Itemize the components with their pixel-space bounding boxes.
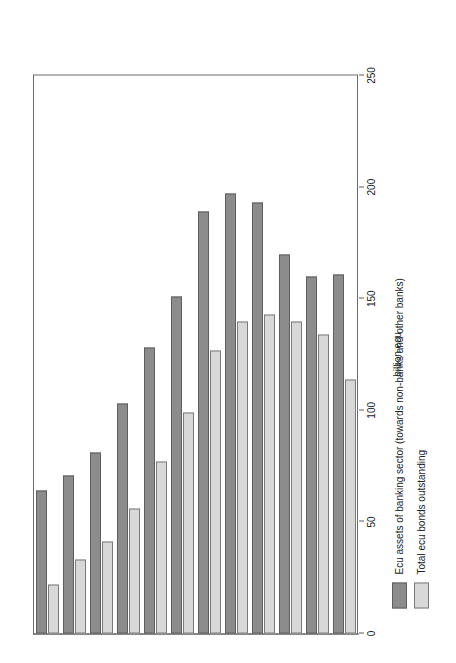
- bar-1996-series0: [333, 274, 344, 633]
- bar-group-1987: [90, 75, 113, 633]
- bar-1986-series0: [63, 475, 74, 633]
- legend-label-0: Ecu assets of banking sector (towards no…: [394, 278, 405, 574]
- bar-group-1995: [306, 75, 329, 633]
- bar-group-1996: [333, 75, 356, 633]
- chart-figure: 050100150200250 198519861987198819891990…: [0, 0, 456, 663]
- bar-1991-series1: [210, 350, 221, 633]
- bar-1992-series1: [237, 321, 248, 633]
- bar-group-1992: [225, 75, 248, 633]
- value-tick-label-250: 250: [366, 58, 377, 92]
- legend-item-1: Total ecu bonds outstanding: [414, 278, 429, 608]
- bar-1991-series0: [198, 211, 209, 633]
- bar-1985-series0: [36, 490, 47, 633]
- legend-item-0: Ecu assets of banking sector (towards no…: [392, 278, 407, 608]
- bar-group-1986: [63, 75, 86, 633]
- bar-1992-series0: [225, 193, 236, 633]
- bar-1995-series1: [318, 334, 329, 633]
- bar-1994-series0: [279, 254, 290, 633]
- value-tick-150: [359, 297, 364, 298]
- value-tick-50: [359, 520, 364, 521]
- value-tick-250: [359, 74, 364, 75]
- value-tick-label-150: 150: [366, 281, 377, 315]
- value-tick-200: [359, 186, 364, 187]
- bar-1987-series1: [102, 542, 113, 634]
- value-tick-label-200: 200: [366, 170, 377, 204]
- bar-1988-series1: [129, 508, 140, 633]
- bar-group-1990: [171, 75, 194, 633]
- bar-group-1988: [117, 75, 140, 633]
- bar-1990-series0: [171, 296, 182, 633]
- dark-gray-swatch: [392, 582, 407, 608]
- bar-group-1985: [36, 75, 59, 633]
- value-tick-label-100: 100: [366, 393, 377, 427]
- bar-group-1994: [279, 75, 302, 633]
- bar-1985-series1: [48, 584, 59, 633]
- bar-group-1991: [198, 75, 221, 633]
- light-gray-swatch: [414, 582, 429, 608]
- bar-1995-series0: [306, 276, 317, 633]
- bar-1989-series0: [144, 347, 155, 633]
- bar-1994-series1: [291, 321, 302, 633]
- bar-1989-series1: [156, 461, 167, 633]
- value-tick-100: [359, 409, 364, 410]
- value-tick-label-50: 50: [366, 504, 377, 538]
- bar-1996-series1: [345, 379, 356, 633]
- bar-group-1993: [252, 75, 275, 633]
- rotated-figure-wrapper: 050100150200250 198519861987198819891990…: [0, 0, 456, 663]
- value-tick-label-0: 0: [366, 616, 377, 650]
- bar-1987-series0: [90, 452, 101, 633]
- bar-1993-series1: [264, 314, 275, 633]
- chart-legend: Ecu assets of banking sector (towards no…: [392, 278, 436, 608]
- value-tick-0: [359, 632, 364, 633]
- bar-1986-series1: [75, 559, 86, 633]
- legend-label-1: Total ecu bonds outstanding: [416, 449, 427, 574]
- chart-page: 050100150200250 198519861987198819891990…: [0, 0, 456, 663]
- bar-1993-series0: [252, 202, 263, 633]
- bar-1988-series0: [117, 403, 128, 633]
- bar-1990-series1: [183, 412, 194, 633]
- bar-group-1989: [144, 75, 167, 633]
